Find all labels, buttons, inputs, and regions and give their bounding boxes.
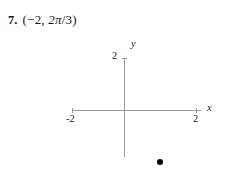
x-axis-label: x	[207, 102, 212, 113]
plotted-point	[157, 159, 163, 165]
x-axis-tick-label-neg2: -2	[66, 113, 75, 124]
y-axis-line	[124, 58, 125, 157]
x-axis-line	[72, 110, 201, 111]
y-axis-tick-label-pos2: 2	[112, 50, 117, 61]
exercise-figure: 7.(−2, 2π/3) -2 2 2 x y	[0, 0, 226, 174]
x-axis-tick-label-pos2: 2	[193, 113, 198, 124]
y-axis-tick-pos2	[122, 58, 127, 59]
y-axis-label: y	[131, 38, 136, 49]
coordinate-plane: -2 2 2 x y	[0, 0, 226, 174]
